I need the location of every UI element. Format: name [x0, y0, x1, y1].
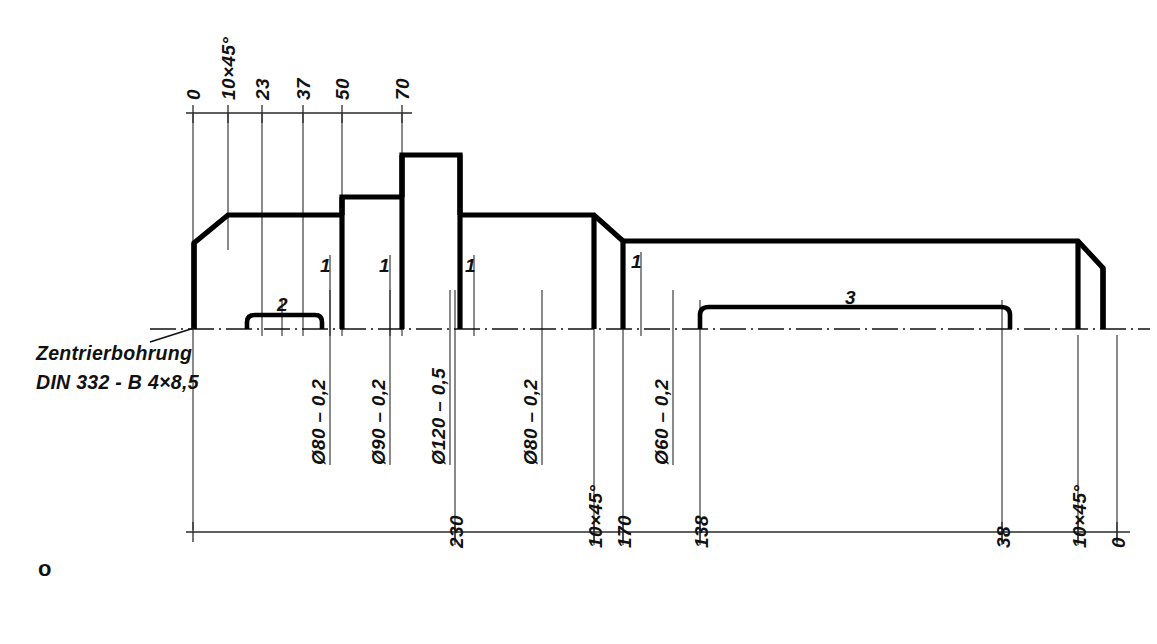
- bottom-dim-label-170: 170: [614, 515, 635, 548]
- diameter-labels: Ø80 – 0,2 Ø90 – 0,2 Ø120 – 0,5 Ø80 – 0,2…: [308, 368, 672, 465]
- outline-step-90: [342, 197, 402, 215]
- bottom-dimension-labels: 230 10×45° 170 138 38 10×45° 0: [446, 485, 1129, 549]
- top-dim-label-50: 50: [332, 78, 353, 100]
- diameter-label-60: Ø60 – 0,2: [651, 379, 672, 465]
- extension-lines-bottom: [455, 268, 1117, 545]
- item-number-1c: 1: [465, 255, 476, 276]
- item-number-1b: 1: [379, 255, 390, 276]
- extension-lines-top: [193, 113, 402, 530]
- outline-step-120: [402, 155, 460, 215]
- diameter-label-80b: Ø80 – 0,2: [520, 379, 541, 465]
- top-dimension-ticks: [193, 105, 402, 123]
- bottom-dim-label-10c: 10×45°: [1069, 485, 1090, 548]
- centering-bore-note: Zentrierbohrung DIN 332 - B 4×8,5: [35, 342, 200, 393]
- item-number-1d: 1: [631, 251, 642, 272]
- top-dim-label-10a: 10×45°: [218, 37, 239, 100]
- diameter-label-120: Ø120 – 0,5: [428, 368, 449, 465]
- bottom-dim-label-230: 230: [446, 515, 467, 549]
- technical-drawing-page: 0 10×45° 23 37 50 70 230 10×45° 170 138 …: [0, 0, 1157, 644]
- outline-step-80-mid: [460, 215, 623, 241]
- item-number-3: 3: [845, 287, 856, 308]
- diameter-label-80a: Ø80 – 0,2: [308, 379, 329, 465]
- drawing-canvas: 0 10×45° 23 37 50 70 230 10×45° 170 138 …: [0, 0, 1157, 644]
- top-dim-label-70: 70: [392, 78, 413, 100]
- bottom-dim-label-0r: 0: [1108, 537, 1129, 548]
- top-dimension-labels: 0 10×45° 23 37 50 70: [183, 37, 413, 101]
- note-line-2: DIN 332 - B 4×8,5: [36, 371, 200, 393]
- top-dim-label-0: 0: [183, 89, 204, 100]
- groove-3: [700, 307, 1010, 329]
- bottom-dim-label-138: 138: [691, 515, 712, 548]
- bottom-dim-label-38: 38: [993, 526, 1014, 548]
- top-dim-label-37: 37: [293, 77, 314, 100]
- bottom-dim-label-10b: 10×45°: [585, 485, 606, 548]
- item-number-2: 2: [276, 294, 288, 315]
- groove-2: [247, 315, 322, 329]
- note-line-1: Zentrierbohrung: [35, 342, 192, 364]
- outline-step-60-right: [623, 241, 1103, 329]
- top-dim-label-23: 23: [252, 78, 273, 101]
- figure-label: o: [38, 556, 51, 581]
- note-leader-line: [150, 328, 194, 342]
- dimension-lines: [186, 113, 1130, 532]
- item-number-1a: 1: [320, 255, 331, 276]
- diameter-label-90: Ø90 – 0,2: [368, 379, 389, 465]
